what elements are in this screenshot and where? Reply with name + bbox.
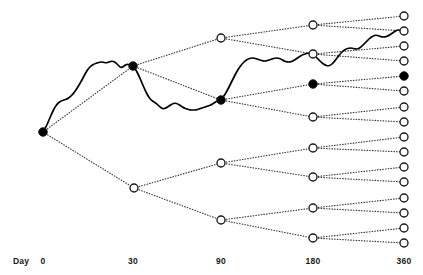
tree-node-scenario[interactable] <box>400 209 408 217</box>
tree-node-scenario[interactable] <box>130 184 138 192</box>
tree-node-scenario[interactable] <box>400 178 408 186</box>
realized-sample-path <box>43 30 404 132</box>
tree-branch <box>313 25 404 31</box>
tree-node-scenario[interactable] <box>400 118 408 126</box>
tree-branch <box>313 16 404 25</box>
tree-node-scenario[interactable] <box>309 173 317 181</box>
tree-branch <box>313 208 404 213</box>
tree-node-scenario[interactable] <box>217 34 225 42</box>
tree-node-scenario[interactable] <box>400 194 408 202</box>
tree-branch <box>43 66 133 132</box>
tree-nodes-group <box>39 12 409 247</box>
tree-node-realized[interactable] <box>39 128 48 137</box>
tree-node-realized[interactable] <box>129 62 138 71</box>
tree-branch <box>313 46 404 54</box>
tree-edges-group <box>43 16 404 243</box>
tree-node-realized[interactable] <box>309 80 318 89</box>
tree-branch <box>313 148 404 152</box>
x-axis-tick-label-30: 30 <box>128 256 138 266</box>
tree-branch <box>221 148 313 163</box>
tree-node-scenario[interactable] <box>309 144 317 152</box>
tree-branch <box>134 163 221 188</box>
tree-branch <box>313 167 404 177</box>
tree-branch <box>313 228 404 238</box>
tree-node-scenario[interactable] <box>400 87 408 95</box>
tree-node-scenario[interactable] <box>309 234 317 242</box>
x-axis-tick-label-180: 180 <box>306 256 321 266</box>
tree-branch <box>221 163 313 177</box>
tree-branch <box>313 117 404 122</box>
tree-branch <box>313 84 404 91</box>
tree-branch <box>221 25 313 38</box>
tree-node-scenario[interactable] <box>400 57 408 65</box>
tree-branch <box>313 76 404 84</box>
tree-branch <box>221 100 313 117</box>
tree-node-scenario[interactable] <box>309 113 317 121</box>
x-axis-tick-label-90: 90 <box>216 256 226 266</box>
tree-node-scenario[interactable] <box>217 159 225 167</box>
tree-node-scenario[interactable] <box>400 239 408 247</box>
tree-node-realized[interactable] <box>400 72 409 81</box>
tree-node-scenario[interactable] <box>400 224 408 232</box>
tree-branch <box>133 38 221 66</box>
tree-node-realized[interactable] <box>217 96 226 105</box>
tree-node-scenario[interactable] <box>309 204 317 212</box>
tree-branch <box>221 84 313 100</box>
tree-node-scenario[interactable] <box>400 12 408 20</box>
tree-node-scenario[interactable] <box>400 103 408 111</box>
tree-branch <box>313 54 404 61</box>
tree-branch <box>313 107 404 117</box>
x-axis-tick-label-0: 0 <box>41 256 46 266</box>
scenario-tree-figure: Day03090180360 <box>0 0 423 275</box>
tree-branch <box>313 177 404 182</box>
tree-branch <box>133 66 221 100</box>
tree-branch <box>313 238 404 243</box>
tree-node-scenario[interactable] <box>309 21 317 29</box>
tree-branch <box>221 208 313 220</box>
tree-node-scenario[interactable] <box>400 163 408 171</box>
tree-node-scenario[interactable] <box>400 42 408 50</box>
tree-node-scenario[interactable] <box>217 216 225 224</box>
tree-branch <box>134 188 221 220</box>
tree-branch <box>43 132 134 188</box>
tree-branch <box>221 38 313 54</box>
tree-branch <box>221 220 313 238</box>
x-axis-tick-label-360: 360 <box>397 256 412 266</box>
tree-node-scenario[interactable] <box>400 148 408 156</box>
tree-branch <box>313 198 404 208</box>
tree-node-scenario[interactable] <box>400 133 408 141</box>
realized-path-group <box>43 30 404 132</box>
x-axis-caption: Day <box>13 256 29 266</box>
tree-branch <box>313 137 404 148</box>
tree-node-scenario[interactable] <box>309 50 317 58</box>
tree-node-scenario[interactable] <box>400 27 408 35</box>
scenario-tree-canvas <box>0 0 423 275</box>
